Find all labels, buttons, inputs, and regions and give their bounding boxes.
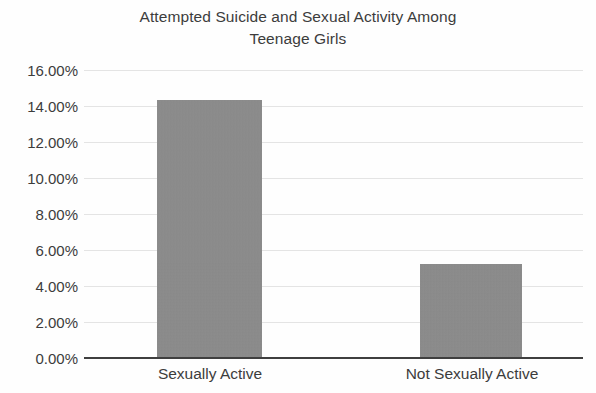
y-axis-tick-label: 6.00% xyxy=(0,243,78,258)
x-axis-tick-label-not-sexually-active: Not Sexually Active xyxy=(387,363,557,385)
y-axis-tick-label: 2.00% xyxy=(0,315,78,330)
chart-title-line-2: Teenage Girls xyxy=(60,28,536,50)
bar-chart: Attempted Suicide and Sexual Activity Am… xyxy=(0,0,596,393)
y-axis-tick-label: 8.00% xyxy=(0,207,78,222)
y-axis-tick-label: 0.00% xyxy=(0,351,78,366)
y-axis-tick-label: 4.00% xyxy=(0,279,78,294)
chart-title: Attempted Suicide and Sexual Activity Am… xyxy=(60,6,536,50)
y-axis-tick-label: 14.00% xyxy=(0,99,78,114)
bar-sexually-active xyxy=(157,100,262,358)
x-axis-line xyxy=(84,357,583,359)
x-axis-tick-label-sexually-active: Sexually Active xyxy=(135,363,285,385)
plot-area xyxy=(84,70,583,358)
y-axis-tick-label: 10.00% xyxy=(0,171,78,186)
y-axis-tick-label: 12.00% xyxy=(0,135,78,150)
y-axis: 16.00% 14.00% 12.00% 10.00% 8.00% 6.00% … xyxy=(0,0,78,393)
gridline xyxy=(84,70,583,71)
bar-not-sexually-active xyxy=(420,264,522,358)
chart-title-line-1: Attempted Suicide and Sexual Activity Am… xyxy=(60,6,536,28)
y-axis-tick-label: 16.00% xyxy=(0,63,78,78)
